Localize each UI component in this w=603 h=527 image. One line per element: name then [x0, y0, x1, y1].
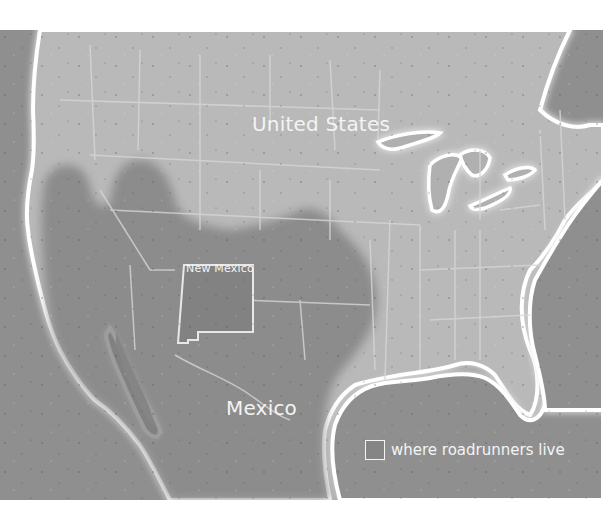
map-legend: where roadrunners live	[365, 440, 565, 460]
map-graphic	[0, 30, 603, 500]
range-map: United States New Mexico Mexico where ro…	[0, 30, 603, 500]
legend-label: where roadrunners live	[391, 441, 565, 459]
label-united-states: United States	[252, 112, 390, 136]
label-mexico: Mexico	[226, 396, 297, 420]
range-swatch-icon	[365, 440, 385, 460]
label-new-mexico: New Mexico	[186, 262, 254, 275]
